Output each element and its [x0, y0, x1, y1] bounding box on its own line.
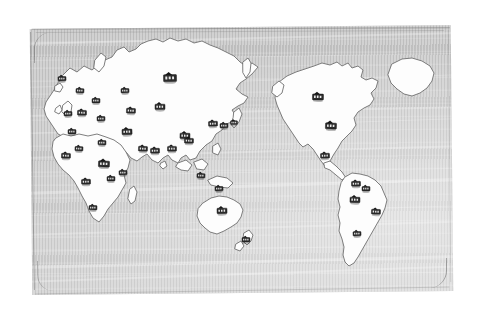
building-marker-icon[interactable]	[98, 139, 106, 147]
building-marker-icon[interactable]	[64, 110, 72, 118]
building-marker-icon[interactable]	[89, 204, 97, 212]
building-marker-icon[interactable]	[81, 177, 90, 186]
building-marker-icon[interactable]	[362, 185, 370, 193]
building-marker-icon[interactable]	[119, 169, 127, 177]
world-map	[0, 0, 479, 312]
building-marker-icon[interactable]	[97, 115, 105, 123]
building-marker-icon[interactable]	[58, 75, 66, 83]
building-marker-icon[interactable]	[231, 119, 238, 126]
building-marker-icon[interactable]	[121, 87, 129, 95]
building-marker-icon[interactable]	[350, 195, 360, 205]
building-marker-icon[interactable]	[76, 87, 84, 95]
building-marker-icon[interactable]	[325, 120, 336, 131]
building-marker-icon[interactable]	[155, 102, 165, 112]
building-marker-icon[interactable]	[220, 122, 228, 130]
building-marker-icon[interactable]	[320, 151, 329, 160]
building-marker-icon[interactable]	[312, 92, 323, 103]
building-marker-icon[interactable]	[92, 97, 100, 105]
building-marker-icon[interactable]	[68, 128, 76, 136]
building-marker-icon[interactable]	[98, 158, 109, 169]
building-marker-icon[interactable]	[107, 175, 115, 183]
building-marker-icon[interactable]	[138, 144, 147, 153]
building-marker-icon[interactable]	[371, 207, 380, 216]
building-marker-icon[interactable]	[61, 151, 70, 160]
building-marker-icon[interactable]	[122, 127, 132, 137]
building-marker-icon[interactable]	[215, 185, 223, 193]
building-marker-icon[interactable]	[163, 72, 176, 84]
building-marker-icon[interactable]	[197, 172, 205, 180]
building-marker-icon[interactable]	[126, 106, 135, 115]
building-marker-icon[interactable]	[208, 119, 217, 128]
building-marker-icon[interactable]	[353, 230, 361, 238]
building-marker-icon[interactable]	[75, 145, 83, 153]
building-marker-icon[interactable]	[217, 206, 227, 216]
building-marker-icon[interactable]	[351, 179, 360, 188]
marker-layer[interactable]	[0, 0, 479, 312]
building-marker-icon[interactable]	[77, 108, 86, 117]
building-marker-icon[interactable]	[168, 144, 177, 153]
building-marker-icon[interactable]	[150, 146, 159, 155]
building-marker-icon[interactable]	[242, 236, 250, 244]
